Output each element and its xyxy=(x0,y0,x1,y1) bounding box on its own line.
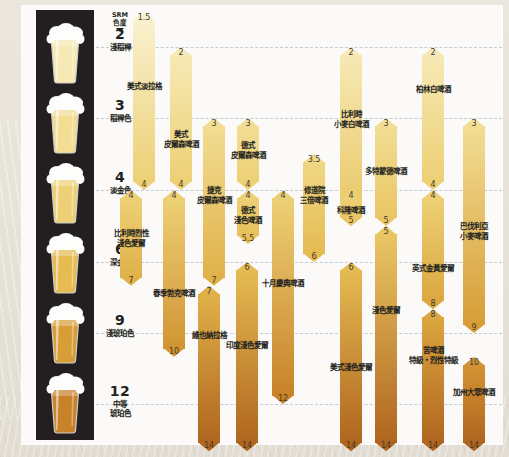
bar-min-value: 4 xyxy=(272,191,294,200)
bar-min-value: 4 xyxy=(422,191,444,200)
beer-glass-swatch xyxy=(42,88,88,154)
bar-max-value: 14 xyxy=(422,441,444,450)
bar-min-value: 7 xyxy=(198,287,220,296)
beer-glass-swatch xyxy=(42,368,88,434)
srm-scale-tick-9: 9淺琥珀色 xyxy=(96,313,144,338)
beer-style-bar[interactable]: 24 xyxy=(170,47,192,190)
bar-max-value: 5 xyxy=(340,216,362,225)
bar-body xyxy=(133,20,155,183)
bar-max-value: 14 xyxy=(236,441,258,450)
bar-min-value: 4 xyxy=(120,191,142,200)
bar-body xyxy=(463,365,485,444)
bar-style-label: 德式淺色啤酒 xyxy=(229,206,267,225)
bar-max-value: 14 xyxy=(198,441,220,450)
bar-min-value: 6 xyxy=(340,263,362,272)
beer-style-bar[interactable]: 24 xyxy=(422,47,444,190)
bar-style-label: 英式金黃愛爾 xyxy=(406,264,460,274)
bar-body xyxy=(272,198,294,396)
bar-max-value: 12 xyxy=(272,394,294,403)
bar-max-value: 6 xyxy=(303,252,325,261)
bar-min-value: 2 xyxy=(422,48,444,57)
bar-max-value: 14 xyxy=(375,441,397,450)
bar-style-label: 德式皮爾森啤酒 xyxy=(225,141,271,160)
beer-style-bar[interactable]: 3.56 xyxy=(303,154,325,262)
bar-style-label: 印度淺色愛爾 xyxy=(220,341,274,351)
bar-min-value: 4 xyxy=(163,191,185,200)
bar-style-label: 美式淺色愛爾 xyxy=(324,363,378,373)
bar-max-value: 5.5 xyxy=(237,234,259,243)
bar-body xyxy=(340,270,362,443)
beer-style-bar[interactable]: 48 xyxy=(422,190,444,309)
bar-max-value: 4 xyxy=(237,180,259,189)
bar-min-value: 2 xyxy=(340,48,362,57)
srm-beer-color-chart: SRM 色度 2淺稻稈3稻稈色4淡金色6深金色9淺琥珀色12中等琥珀色 1.54… xyxy=(0,0,509,457)
bar-min-value: 2 xyxy=(170,48,192,57)
bar-min-value: 8 xyxy=(422,310,444,319)
beer-style-bar[interactable]: 814 xyxy=(422,309,444,451)
bar-style-label: 多特蒙德啤酒 xyxy=(359,167,413,177)
bar-max-value: 10 xyxy=(163,347,185,356)
bar-min-value: 5 xyxy=(375,227,397,236)
bar-max-value: 14 xyxy=(463,441,485,450)
beer-glass-swatch xyxy=(42,298,88,364)
beer-style-bar[interactable]: 1014 xyxy=(463,357,485,452)
beer-style-bar[interactable]: 412 xyxy=(272,190,294,404)
beer-style-bar[interactable]: 614 xyxy=(236,262,258,451)
bar-min-value: 3 xyxy=(463,119,485,128)
beer-glass-swatch xyxy=(42,228,88,294)
bar-max-value: 4 xyxy=(422,180,444,189)
bar-min-value: 3.5 xyxy=(303,155,325,164)
bar-style-label: 比利時小麥白啤酒 xyxy=(328,110,374,129)
bar-style-label: 科隆啤酒 xyxy=(332,206,370,216)
bar-min-value: 1.5 xyxy=(133,13,155,22)
bar-style-label: 巴伐利亞小麥啤酒 xyxy=(455,222,493,241)
bar-style-label: 加州大眾啤酒 xyxy=(447,388,501,398)
beer-style-bar[interactable]: 514 xyxy=(375,226,397,451)
bar-body xyxy=(236,270,258,443)
beer-style-bar[interactable]: 1.54 xyxy=(133,12,155,191)
bar-min-value: 10 xyxy=(463,358,485,367)
bar-body xyxy=(303,162,325,254)
bar-body xyxy=(198,294,220,444)
bar-max-value: 8 xyxy=(422,299,444,308)
bar-min-value: 4 xyxy=(340,191,362,200)
bar-body xyxy=(422,55,444,182)
bar-body xyxy=(163,198,185,349)
bar-style-label: 春季勃克啤酒 xyxy=(147,289,201,299)
bar-max-value: 9 xyxy=(463,323,485,332)
bar-body xyxy=(375,234,397,443)
bar-style-label: 比利時烈性淺色愛爾 xyxy=(108,229,154,248)
beer-glass-strip xyxy=(36,10,94,440)
beer-style-bar[interactable]: 410 xyxy=(163,190,185,357)
bar-body xyxy=(170,55,192,182)
bar-max-value: 14 xyxy=(340,441,362,450)
bar-max-value: 4 xyxy=(170,180,192,189)
srm-scale-tick-12: 12中等琥珀色 xyxy=(96,384,144,418)
bar-body xyxy=(422,198,444,301)
bar-style-label: 苦啤酒特級・烈性特級 xyxy=(402,346,464,365)
bar-min-value: 3 xyxy=(237,119,259,128)
bar-style-label: 柏林白啤酒 xyxy=(410,85,456,95)
beer-glass-swatch xyxy=(42,18,88,84)
bar-style-label: 美式淡拉格 xyxy=(121,82,167,92)
bar-min-value: 6 xyxy=(236,263,258,272)
srm-scale-value: 12 xyxy=(96,384,144,398)
bar-min-value: 3 xyxy=(203,119,225,128)
srm-scale-name: 淺琥珀色 xyxy=(96,329,144,338)
bar-style-label: 淺色愛爾 xyxy=(367,306,405,316)
srm-scale-value: 9 xyxy=(96,313,144,327)
bar-body xyxy=(422,317,444,443)
beer-style-bar[interactable]: 714 xyxy=(198,286,220,452)
bar-max-value: 5 xyxy=(375,216,397,225)
srm-scale-name: 中等琥珀色 xyxy=(96,400,144,418)
bar-style-label: 美式皮爾森啤酒 xyxy=(158,130,204,149)
bar-style-label: 維也納拉格 xyxy=(186,331,232,341)
bar-style-label: 十月慶典啤酒 xyxy=(256,279,310,289)
bar-style-label: 修道院三倍啤酒 xyxy=(295,186,333,205)
beer-style-bar[interactable]: 614 xyxy=(340,262,362,451)
beer-glass-swatch xyxy=(42,158,88,224)
bar-max-value: 7 xyxy=(120,276,142,285)
bar-min-value: 3 xyxy=(375,119,397,128)
bar-min-value: 4 xyxy=(237,191,259,200)
bar-style-label: 捷克皮爾森啤酒 xyxy=(191,186,237,205)
